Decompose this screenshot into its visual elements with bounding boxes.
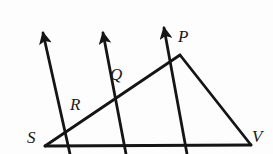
vertex-label-p: P xyxy=(178,28,188,45)
ray-through-P xyxy=(164,28,187,154)
vertex-label-q: Q xyxy=(110,66,122,83)
line-P-to-V xyxy=(180,55,251,145)
vertex-label-r: R xyxy=(70,96,80,113)
ray-through-R xyxy=(43,33,70,154)
base-line-SV xyxy=(45,145,251,146)
vertex-label-v: V xyxy=(252,128,262,145)
geometry-canvas xyxy=(0,0,273,154)
vertex-label-s: S xyxy=(27,129,36,146)
geometry-figure: S V P Q R xyxy=(0,0,273,154)
